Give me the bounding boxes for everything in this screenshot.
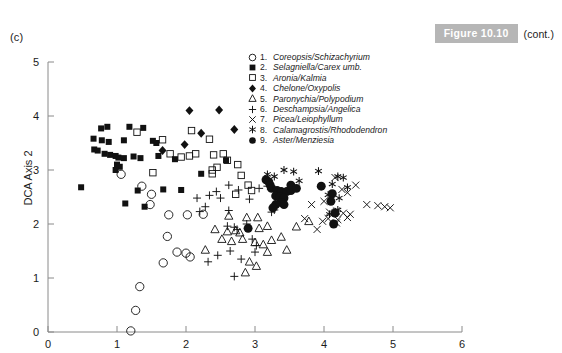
series-7 [301,174,394,233]
data-point [98,125,104,131]
legend-number: 5. [260,94,273,104]
data-point [167,151,173,157]
data-point [225,181,233,189]
data-point [181,140,189,149]
data-point [78,184,84,190]
data-point [243,213,251,221]
data-point [153,140,159,146]
legend-item: 8.Calamagrostis/Rhododendron [247,125,387,135]
figure-caption-banner: Figure 10.10 (cont.) [435,24,554,43]
data-point [226,247,234,255]
data-point [255,224,263,232]
data-point [188,127,194,133]
legend-label: Calamagrostis/Rhododendron [273,125,387,135]
data-point [201,203,209,211]
legend-marker [247,135,260,146]
legend-label: Picea/Leiophyllum [273,114,343,124]
data-point [301,215,308,222]
data-point [173,248,181,256]
data-point [326,197,335,206]
data-point [212,188,220,196]
data-point [113,167,119,173]
data-point [374,202,381,209]
data-point [91,136,97,142]
data-point [126,124,132,130]
data-point [252,242,260,250]
data-point [230,125,238,134]
panel-label: (c) [10,31,23,43]
legend-label: Selagniella/Carex umb. [273,62,362,72]
data-point [131,154,137,160]
legend-item: 5.Paronychia/Polypodium [247,94,387,104]
data-point [140,125,146,131]
filled-square-icon [247,62,258,73]
data-point [197,129,205,138]
legend-label: Deschampsia/Angelica [273,104,360,114]
data-point [102,151,108,157]
legend-marker [247,114,260,125]
data-point [178,187,184,193]
filled-circle-icon [247,135,258,146]
legend: 1.Coreopsis/Schizachyrium2.Selagniella/C… [247,52,387,146]
data-point [136,283,144,291]
legend-item: 1.Coreopsis/Schizachyrium [247,52,387,62]
data-point [205,191,213,199]
data-point [206,136,212,142]
legend-marker [247,104,260,115]
data-point [235,161,241,167]
x-tick-label: 1 [114,338,120,350]
data-point [225,207,233,215]
data-point [245,258,253,266]
data-point [255,184,263,192]
data-point [363,201,370,208]
data-point [292,222,300,230]
data-point [237,255,245,263]
data-point [344,214,351,221]
data-point [159,259,167,267]
data-point [204,258,212,266]
data-point [263,248,271,256]
data-point [215,106,223,115]
data-point [135,188,141,194]
x-tick-label: 3 [252,338,258,350]
data-point [268,203,277,212]
asterisk-icon [247,124,258,135]
legend-label: Aster/Menziesia [273,135,334,145]
data-point [259,240,267,248]
legend-number: 7. [260,114,273,124]
data-point [122,200,128,206]
data-point [155,153,161,159]
figure-panel-c: (c) Figure 10.10 (cont.) DCA Axis 2 0123… [0,0,562,353]
legend-number: 4. [260,83,273,93]
legend-label: Paronychia/Polypodium [273,94,363,104]
plus-icon [247,104,258,115]
x-tick-label: 2 [183,338,189,350]
data-point [314,226,321,233]
legend-number: 9. [260,135,273,145]
legend-label: Chelone/Oxypolis [273,83,340,93]
data-point [106,139,112,145]
data-point [217,194,225,202]
data-point [336,194,343,202]
data-point [223,222,231,230]
legend-number: 6. [260,104,273,114]
data-point [387,204,394,211]
legend-item: 6.Deschampsia/Angelica [247,104,387,114]
data-point [227,237,235,245]
data-point [220,151,226,157]
legend-marker [247,72,260,83]
series-1 [117,170,207,335]
data-point [329,180,336,188]
x-tick-label: 5 [390,338,396,350]
data-point [150,170,156,176]
legend-number: 3. [260,73,273,83]
series-5 [201,212,313,276]
data-point [329,220,338,229]
data-point [251,248,259,256]
legend-marker [247,93,260,104]
data-point [267,236,275,244]
data-point [137,155,143,161]
data-point [317,182,326,191]
data-point [160,186,166,192]
data-point [107,152,113,158]
